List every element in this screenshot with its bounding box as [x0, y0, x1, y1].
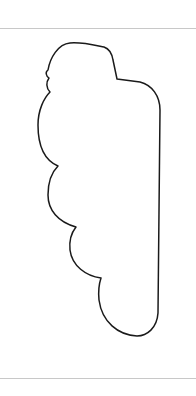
drawing-canvas [0, 0, 196, 396]
cloud-outline-shape [38, 43, 160, 336]
bottom-divider [0, 378, 196, 379]
